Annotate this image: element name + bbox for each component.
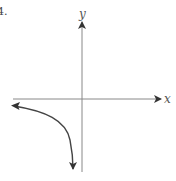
x-axis-label: x <box>164 92 171 106</box>
curve-left-arrowhead <box>11 102 20 110</box>
coordinate-graph: y x <box>0 0 176 181</box>
y-axis-label: y <box>78 7 86 21</box>
hyperbola-branch-curve <box>14 106 73 169</box>
